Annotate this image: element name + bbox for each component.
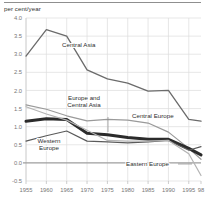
series-label-europe-and-central-asia: Europe andCentral Asia bbox=[67, 94, 101, 108]
series-label-central-asia: Central Asia bbox=[62, 41, 96, 48]
svg-text:0.5: 0.5 bbox=[14, 142, 22, 148]
svg-text:1.5: 1.5 bbox=[14, 106, 22, 112]
svg-text:1975: 1975 bbox=[101, 187, 114, 193]
chart-figure: per cent/year 4.03.53.02.52.01.51.00.50.… bbox=[0, 0, 214, 200]
svg-text:1970: 1970 bbox=[81, 187, 94, 193]
y-tick-labels: 4.03.53.02.52.01.51.00.50.0-0.5 bbox=[12, 15, 22, 184]
svg-text:1995: 1995 bbox=[182, 187, 195, 193]
svg-text:1965: 1965 bbox=[60, 187, 73, 193]
svg-text:4.0: 4.0 bbox=[14, 15, 22, 21]
svg-text:-0.5: -0.5 bbox=[12, 178, 22, 184]
series-line-central-asia bbox=[26, 30, 201, 122]
series-label-eastern-europe: Eastern Europe bbox=[126, 160, 170, 167]
series-labels: Central AsiaCentral AsiaCentral EuropeCe… bbox=[38, 41, 175, 167]
svg-text:1990: 1990 bbox=[162, 187, 175, 193]
svg-text:1985: 1985 bbox=[142, 187, 155, 193]
svg-text:2.0: 2.0 bbox=[14, 88, 22, 94]
plot-area: 4.03.53.02.52.01.51.00.50.0-0.5 19551960… bbox=[0, 0, 214, 200]
series-label-central-europe: Central Europe bbox=[132, 112, 174, 119]
svg-text:0.0: 0.0 bbox=[14, 160, 22, 166]
svg-text:3.0: 3.0 bbox=[14, 51, 22, 57]
series-lines bbox=[26, 30, 201, 176]
x-tick-labels: 19551960196519701975198019851990199598 bbox=[20, 187, 205, 193]
svg-text:2.5: 2.5 bbox=[14, 69, 22, 75]
series-label-western-europe: WesternEurope bbox=[38, 137, 61, 151]
svg-text:1980: 1980 bbox=[121, 187, 134, 193]
svg-text:3.5: 3.5 bbox=[14, 33, 22, 39]
svg-text:1960: 1960 bbox=[40, 187, 53, 193]
svg-text:1955: 1955 bbox=[20, 187, 33, 193]
svg-text:98: 98 bbox=[198, 187, 204, 193]
svg-text:1.0: 1.0 bbox=[14, 124, 22, 130]
x-tick-marks bbox=[26, 181, 201, 184]
